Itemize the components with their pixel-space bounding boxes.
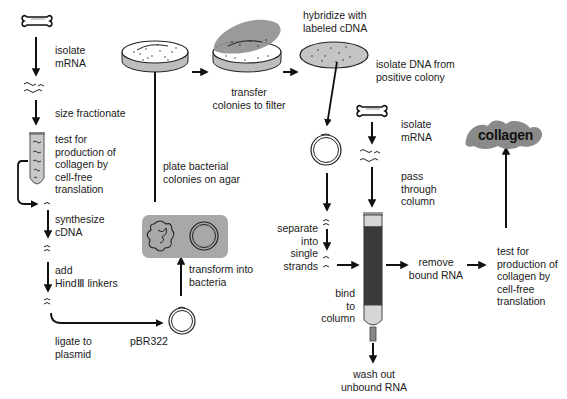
bacterium-icon [142,215,228,258]
single-strand-dna-icon [323,257,329,268]
step-bind: bind to column [305,287,355,325]
mrna-squiggle-icon [360,150,380,162]
arrow-isolate-dna [327,62,337,125]
bone-icon [22,16,52,27]
collagen-label: collagen [478,127,533,143]
step-pass-column: pass through column [401,170,437,208]
step-synthesize-cdna: synthesize cDNA [55,213,105,238]
step-wash-out: wash out unbound RNA [334,368,414,393]
linkered-cdna-icon [44,299,50,305]
cdna-strand-icon [44,203,50,205]
affinity-column-icon [363,212,383,341]
step-remove-bound: remove bound RNA [406,256,466,281]
step-hybridize: hybridize with labeled cDNA [303,9,367,34]
petri-dish-icon [122,41,188,72]
plasmid-circle-icon [169,307,195,334]
plasmid-label: pBR322 [130,335,168,348]
arrow-ligate [51,313,162,323]
plasmid-circle-icon [311,134,341,165]
step-test-translation: test for production of collagen by cell-… [55,133,116,196]
bone-icon [357,106,387,117]
step-size-fractionate: size fractionate [55,107,126,120]
test-tube-icon [29,132,45,184]
double-strand-cdna-icon [44,246,50,252]
step-separate: separate into single strands [262,222,318,272]
step-isolate-mrna: isolate mRNA [55,44,86,69]
step-test-translation-2: test for production of collagen by cell-… [497,245,558,308]
step-plate: plate bacterial colonies on agar [163,160,240,185]
step-ligate: ligate to plasmid [55,335,92,360]
step-add-linkers: add HindⅢ linkers [55,264,118,289]
step-isolate-mrna-2: isolate mRNA [401,118,432,143]
filter-disc-icon [300,42,368,68]
double-strand-dna-icon [323,220,329,226]
mrna-squiggle-icon [24,83,44,93]
petri-dish-with-filter-icon [213,20,281,72]
step-isolate-dna: isolate DNA from positive colony [376,58,455,83]
step-transform: transform into bacteria [189,263,253,288]
step-transfer: transfer colonies to filter [211,86,287,111]
